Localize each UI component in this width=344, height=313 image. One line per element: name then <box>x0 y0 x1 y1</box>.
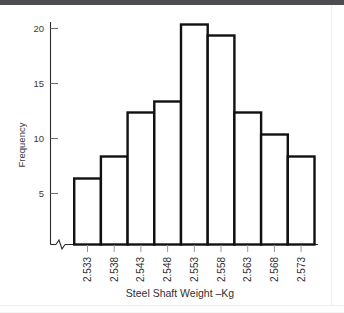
x-tick-label-3: 2.548 <box>162 257 173 282</box>
bar-2-538 <box>101 157 128 245</box>
bar-2-568 <box>261 135 288 245</box>
x-tick-label-8: 2.573 <box>296 257 307 282</box>
x-tick-label-2: 2.543 <box>135 257 146 282</box>
bar-2-548 <box>154 102 181 245</box>
bar-2-558 <box>208 36 235 245</box>
y-axis-title: Frequency <box>16 122 27 167</box>
x-tick-label-5: 2.558 <box>216 257 227 282</box>
histogram-plot: 20 15 10 5 Frequency <box>0 0 344 313</box>
x-tick-label-1: 2.538 <box>109 257 120 282</box>
histogram-bars <box>74 25 314 245</box>
y-tick-label-5: 5 <box>39 188 44 199</box>
bar-2-553 <box>181 25 208 245</box>
bar-2-563 <box>234 113 261 245</box>
x-axis-title: Steel Shaft Weight –Kg <box>126 287 235 299</box>
x-tick-label-6: 2.563 <box>242 257 253 282</box>
x-tick-label-4: 2.553 <box>189 257 200 282</box>
bar-2-573 <box>288 157 315 245</box>
y-tick-label-15: 15 <box>33 78 44 89</box>
x-tick-label-0: 2.533 <box>82 257 93 282</box>
y-tick-label-10: 10 <box>33 133 44 144</box>
bar-2-533 <box>74 179 101 245</box>
y-tick-label-20: 20 <box>33 23 44 34</box>
x-tick-marks <box>88 245 302 252</box>
bar-2-543 <box>128 113 155 245</box>
x-tick-label-7: 2.568 <box>269 257 280 282</box>
histogram-figure: 20 15 10 5 Frequency <box>0 0 344 313</box>
axis-break-icon <box>56 240 65 249</box>
y-tick-marks <box>51 29 59 194</box>
